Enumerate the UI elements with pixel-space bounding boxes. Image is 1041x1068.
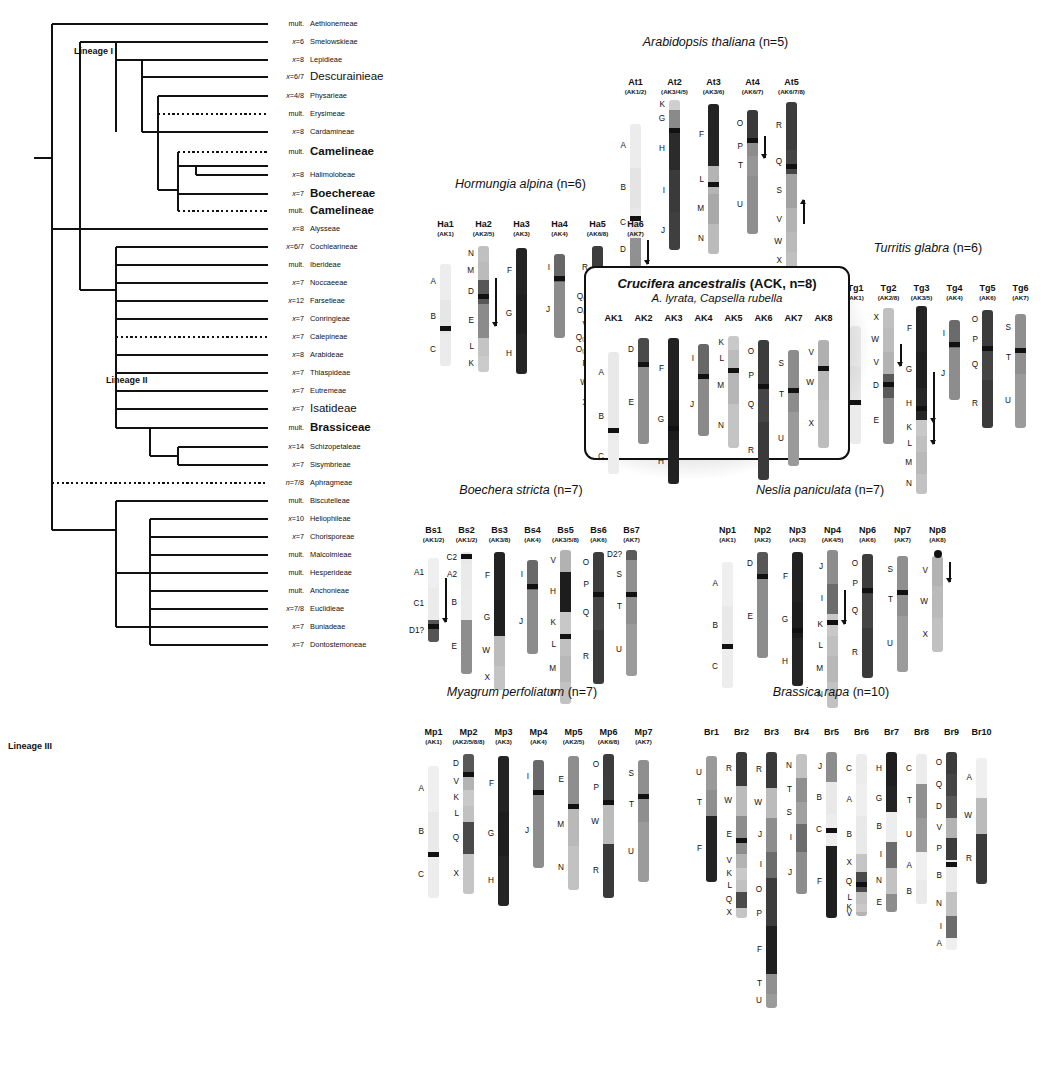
genomic-block-label: U [608,848,634,856]
genomic-block-label: L [886,440,912,448]
genomic-block-label: W [902,598,928,606]
species-haploid-count: (n=7) [550,483,583,497]
genomic-block-label: R [952,400,978,408]
genomic-block-label: F [464,572,490,580]
genomic-block-label: I [797,595,823,603]
genomic-block-segment [747,176,758,234]
genomic-block-segment [736,868,747,880]
tree-tip-label: Alysseae [310,225,340,232]
genomic-block-segment [786,102,797,150]
species-name: Hormungia alpina [455,177,553,191]
tree-tip-basenumber: x=6 [274,38,304,45]
genomic-block-label: U [886,831,912,839]
genomic-block-label: X [788,420,814,428]
tree-tip-label: Eutremeae [310,387,346,394]
lineage-label: Lineage I [74,46,113,56]
genomic-block-label: K [706,870,732,878]
tree-tip-label: Hesperideae [310,569,352,576]
genomic-block-label: G [486,310,512,318]
genomic-block-label: O [916,759,942,767]
tree-tip-label: Arabideae [310,351,344,358]
centromere-marker [554,276,565,281]
genomic-block-segment [708,104,719,166]
ack-title: Crucifera ancestralis (ACK, n=8) [586,276,848,291]
genomic-block-label: S [867,566,893,574]
genomic-block-segment [494,636,505,666]
genomic-block-label: Q [826,878,852,886]
genomic-block-label: C [796,826,822,834]
centromere-marker [533,790,544,795]
genomic-block-label: O [952,316,978,324]
genomic-block-label: A [410,278,436,286]
centromere-marker [428,852,439,857]
genomic-block-label: N [698,422,724,430]
genomic-block-segment [593,630,604,684]
genomic-block-label: N [916,900,942,908]
tree-tip-basenumber: mult. [274,424,304,431]
tree-tip-label: Euclidieae [310,605,344,612]
tree-tip-basenumber: x=8 [274,56,304,63]
genomic-block-label: L [826,894,852,902]
genomic-block-label: G [468,830,494,838]
genomic-block-label: D2? [596,551,622,559]
tree-tip-label: Descurainieae [310,71,384,83]
genomic-block-label: I [856,851,882,859]
genomic-block-label: X [902,631,928,639]
genomic-block-segment [463,754,474,774]
inversion-arrow [491,278,500,326]
genomic-block-segment [706,756,717,790]
centromere-marker [463,772,474,777]
genomic-block-label: A [946,774,972,782]
genomic-block-label: T [758,391,784,399]
chromosome-bar [796,754,807,894]
tree-tip-label: Isatideae [310,403,357,415]
tree-tip-basenumber: x=7 [274,279,304,286]
tree-tip-basenumber: x=7 [274,387,304,394]
tree-tip-basenumber: x=7 [274,369,304,376]
genomic-block-segment [1015,314,1026,342]
genomic-block-label: Q [563,609,589,617]
genomic-block-label: C2 [431,554,457,562]
chromosome-bar [932,556,943,652]
genomic-block-segment [827,614,838,636]
genomic-block-label: P [717,143,743,151]
genomic-block-segment [766,752,777,788]
centromere-marker [788,388,799,393]
tree-tip-label: Calepineae [310,333,347,340]
genomic-block-segment [818,340,829,366]
genomic-block-label: V [433,778,459,786]
genomic-block-label: D [727,560,753,568]
centromere-marker [668,426,679,431]
genomic-block-segment [827,656,838,682]
species-haploid-count: (n=7) [851,483,884,497]
genomic-block-label: N [766,762,792,770]
genomic-block-label: R [562,264,588,272]
tree-tip-label: Buniadeae [310,623,345,630]
genomic-block-label: C [692,663,718,671]
genomic-block-label: P [563,581,589,589]
genomic-block-label: G [638,416,664,424]
genomic-block-label: W [946,812,972,820]
genomic-block-label: R [736,766,762,774]
genomic-block-segment [626,560,637,590]
genomic-block-label: H [639,145,665,153]
genomic-block-label: A [886,862,912,870]
chromosome-bar [722,562,733,688]
genomic-block-label: S [766,809,792,817]
genomic-block-label: N [678,235,704,243]
tree-tip-basenumber: x=6/7 [274,73,304,80]
tree-tip-basenumber: x=7 [274,315,304,322]
inversion-arrow [799,200,808,224]
genomic-block-label: E [448,317,474,325]
genomic-block-label: I [919,330,945,338]
genomic-block-label: X [756,257,782,265]
genomic-block-label: P [728,372,754,380]
genomic-block-segment [818,366,829,400]
genomic-block-label: S [596,571,622,579]
genomic-block-segment [916,420,927,436]
genomic-block-segment [463,854,474,894]
genomic-block-label: N [538,864,564,872]
genomic-block-label: W [788,379,814,387]
lineage-label: Lineage II [106,375,148,385]
genomic-block-segment [669,100,680,110]
